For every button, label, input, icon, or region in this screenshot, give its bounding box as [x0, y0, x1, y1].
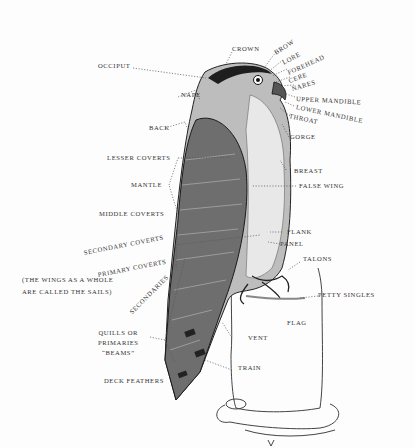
wings-note-line1: (THE WINGS AS A WHOLE [22, 274, 113, 286]
label-quills: QUILLS OR PRIMARIES “BEAMS” [98, 328, 139, 358]
wings-note-line2: ARE CALLED THE SAILS) [22, 286, 113, 298]
label-gorge: GORGE [290, 134, 316, 141]
label-flank: FLANK [287, 229, 312, 236]
label-deck-feathers: DECK FEATHERS [104, 378, 164, 385]
label-mantle: MANTLE [131, 182, 162, 189]
label-back: BACK [149, 125, 170, 132]
wings-note: (THE WINGS AS A WHOLE ARE CALLED THE SAI… [22, 274, 113, 298]
label-quills-line2: PRIMARIES [98, 338, 139, 348]
label-panel: PANEL [280, 241, 304, 248]
label-talons: TALONS [303, 256, 332, 263]
label-flag: FLAG [287, 320, 307, 327]
hawk-illustration [0, 0, 415, 448]
label-train: TRAIN [238, 365, 261, 372]
label-crown: CROWN [232, 46, 260, 53]
label-lesser-coverts: LESSER COVERTS [107, 155, 171, 162]
bird-body [165, 63, 305, 400]
label-false-wing: FALSE WING [299, 183, 344, 190]
label-vent: VENT [248, 335, 268, 342]
label-quills-line1: QUILLS OR [98, 328, 139, 338]
label-breast: BREAST [294, 168, 323, 175]
label-petty-singles: PETTY SINGLES [318, 292, 375, 299]
label-occiput: OCCIPUT [98, 63, 130, 70]
label-middle-coverts: MIDDLE COVERTS [99, 211, 164, 218]
label-nape: NAPE [181, 92, 201, 99]
label-quills-line3: “BEAMS” [98, 348, 139, 358]
